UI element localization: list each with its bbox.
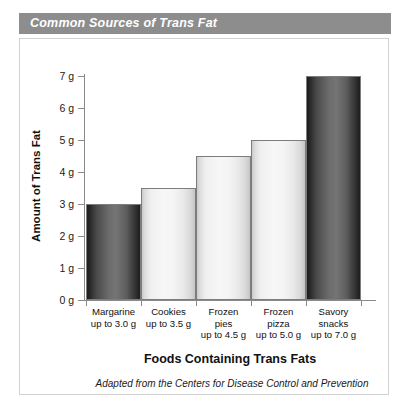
chart-title: Common Sources of Trans Fat [30, 16, 217, 30]
chart-title-bar: Common Sources of Trans Fat [19, 13, 391, 34]
chart-figure: Common Sources of Trans Fat 0 g 1 g 2 g … [0, 0, 406, 409]
chart-frame [19, 38, 389, 395]
